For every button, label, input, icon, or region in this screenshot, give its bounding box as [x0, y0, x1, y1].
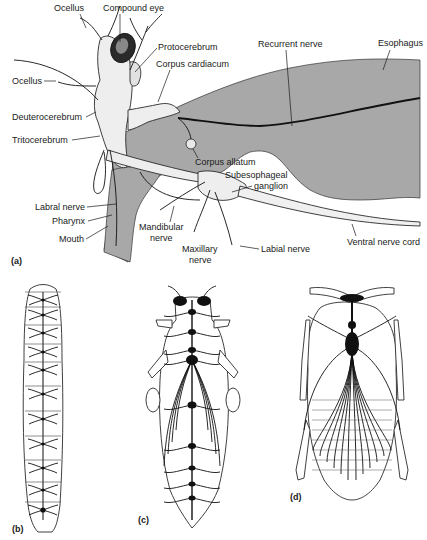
label-mandibular-2: nerve: [150, 233, 173, 243]
mandibular-nerve-line: [160, 182, 205, 210]
label-ocellus-top: Ocellus: [54, 3, 85, 13]
panel-a: Ocellus Compound eye Protocerebrum Corpu…: [11, 3, 424, 266]
label-subesophageal-1: Subesophageal: [225, 170, 288, 180]
maxillary-nerve-line: [194, 190, 210, 232]
panel-b: (b): [12, 285, 63, 535]
label-pharynx: Pharynx: [52, 216, 86, 226]
label-maxillary-2: nerve: [189, 255, 212, 265]
label-subesophageal-2: ganglion: [254, 181, 288, 191]
label-compound-eye: Compound eye: [103, 3, 164, 13]
label-esophagus: Esophagus: [378, 38, 424, 48]
label-corpus-cardiacum: Corpus cardiacum: [156, 59, 229, 69]
label-ventral-nerve-cord: Ventral nerve cord: [347, 237, 420, 247]
pharynx-shape: [104, 167, 160, 262]
label-maxillary-1: Maxillary: [182, 244, 218, 254]
panel-d: (d): [290, 287, 408, 502]
label-labral-nerve: Labral nerve: [35, 202, 85, 212]
panel-label-a: (a): [11, 256, 22, 266]
label-deuterocerebrum: Deuterocerebrum: [12, 112, 82, 122]
panel-c: (c): [138, 286, 240, 528]
label-corpus-allatum: Corpus allatum: [195, 157, 256, 167]
label-labial-nerve: Labial nerve: [261, 244, 310, 254]
panel-label-d: (d): [290, 492, 302, 502]
panel-label-b: (b): [12, 524, 24, 534]
panel-label-c: (c): [138, 515, 149, 525]
insect-nervous-system-figure: Ocellus Compound eye Protocerebrum Corpu…: [0, 0, 427, 540]
corpus-allatum-shape: [186, 139, 196, 149]
label-mandibular-1: Mandibular: [139, 222, 184, 232]
label-recurrent-nerve: Recurrent nerve: [258, 39, 323, 49]
label-mouth: Mouth: [59, 234, 84, 244]
label-protocerebrum: Protocerebrum: [158, 42, 218, 52]
label-tritocerebrum: Tritocerebrum: [12, 135, 68, 145]
label-ocellus-side: Ocellus: [12, 76, 43, 86]
